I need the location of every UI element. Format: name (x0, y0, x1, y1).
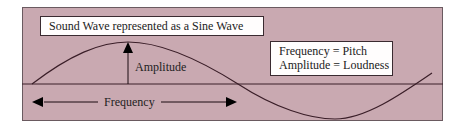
legend-box: Frequency = Pitch Amplitude = Loudness (270, 41, 393, 76)
legend-frequency-pitch: Frequency = Pitch (279, 44, 392, 58)
frequency-label: Frequency (98, 95, 161, 110)
frequency-arrow-right-icon (226, 97, 237, 107)
amplitude-arrow-head-icon (123, 42, 133, 53)
diagram-title: Sound Wave represented as a Sine Wave (40, 16, 264, 36)
amplitude-label: Amplitude (135, 60, 186, 75)
legend-amplitude-loudness: Amplitude = Loudness (279, 58, 392, 72)
frequency-arrow-left-icon (32, 97, 43, 107)
